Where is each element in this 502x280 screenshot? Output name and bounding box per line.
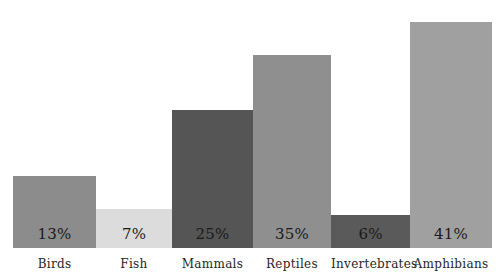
plot-area: 13%7%25%35%6%41% [13,0,494,248]
category-axis: BirdsFishMammalsReptilesInvertebratesAmp… [13,248,494,280]
category-label-mammals: Mammals [172,258,253,270]
bar-value-label: 41% [434,227,468,248]
bar-value-label: 35% [275,227,309,248]
bar-fish[interactable]: 7% [96,209,172,248]
bar-amphibians[interactable]: 41% [410,22,492,248]
bar-invertebrates[interactable]: 6% [331,215,410,248]
bar-column-amphibians: 41% [410,0,492,248]
bar-value-label: 6% [358,227,382,248]
category-label-birds: Birds [13,258,96,270]
bar-birds[interactable]: 13% [13,176,96,248]
bar-mammals[interactable]: 25% [172,110,253,248]
category-label-amphibians: Amphibians [410,258,492,270]
bar-column-fish: 7% [96,0,172,248]
bar-value-label: 25% [196,227,230,248]
bar-column-invertebrates: 6% [331,0,410,248]
category-label-fish: Fish [96,258,172,270]
category-label-invertebrates: Invertebrates [331,258,410,270]
bar-value-label: 7% [122,227,146,248]
bar-chart: 13%7%25%35%6%41% BirdsFishMammalsReptile… [0,0,502,280]
bar-value-label: 13% [38,227,72,248]
bar-column-birds: 13% [13,0,96,248]
bar-reptiles[interactable]: 35% [253,55,331,248]
bar-column-mammals: 25% [172,0,253,248]
category-label-reptiles: Reptiles [253,258,331,270]
bar-column-reptiles: 35% [253,0,331,248]
